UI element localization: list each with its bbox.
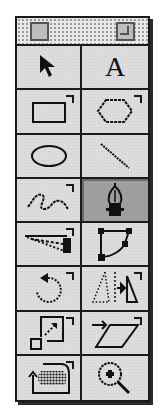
submenu-indicator-icon [134, 317, 142, 325]
polygon-tool[interactable] [82, 90, 148, 134]
letter-a-icon: A [105, 53, 125, 81]
pointer-tool[interactable] [17, 46, 82, 90]
tool-grid: A [17, 46, 148, 400]
scale-tool[interactable] [17, 312, 82, 356]
mirror-icon [91, 270, 139, 306]
hexagon-icon [96, 97, 134, 125]
knife-tool[interactable] [17, 223, 82, 267]
reflect-tool[interactable] [82, 267, 148, 311]
submenu-indicator-icon [134, 272, 142, 280]
submenu-indicator-icon [66, 184, 74, 192]
submenu-indicator-icon [66, 228, 74, 236]
skew-icon [90, 317, 140, 349]
text-tool[interactable]: A [82, 46, 148, 90]
squiggle-icon [26, 187, 72, 213]
ellipse-tool[interactable] [17, 135, 82, 179]
arrow-pointer-icon [38, 54, 60, 80]
skew-tool[interactable] [82, 312, 148, 356]
zoom-box-icon[interactable] [116, 22, 135, 41]
reshape-tool[interactable] [82, 223, 148, 267]
pen-tool[interactable] [82, 179, 148, 223]
scale-icon [29, 315, 69, 351]
close-box-icon[interactable] [30, 22, 49, 41]
submenu-indicator-icon [66, 95, 74, 103]
ellipse-icon [29, 143, 69, 169]
submenu-indicator-icon [66, 272, 74, 280]
freehand-tool[interactable] [17, 179, 82, 223]
path-edit-icon [95, 227, 135, 261]
palette-title-bar[interactable] [17, 18, 148, 46]
pen-nib-icon [104, 182, 126, 218]
magnifier-plus-icon [95, 360, 135, 396]
trace-tool[interactable] [17, 356, 82, 400]
rotate-tool[interactable] [17, 267, 82, 311]
rotate-icon [32, 270, 66, 306]
rectangle-tool[interactable] [17, 90, 82, 134]
line-tool[interactable] [82, 135, 148, 179]
diagonal-line-icon [98, 141, 132, 171]
submenu-indicator-icon [66, 361, 74, 369]
rectangle-icon [29, 99, 69, 123]
submenu-indicator-icon [66, 317, 74, 325]
tool-palette: A [15, 16, 150, 402]
submenu-indicator-icon [134, 95, 142, 103]
zoom-tool[interactable] [82, 356, 148, 400]
